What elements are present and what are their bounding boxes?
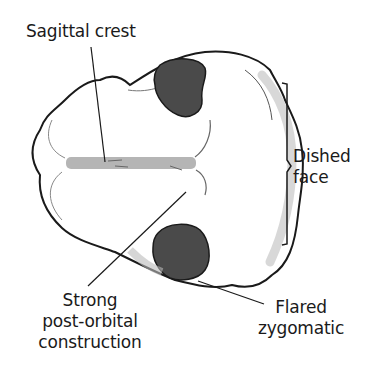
flared-zygomatic-line2: zygomatic [246,318,356,339]
sagittal-crest-label: Sagittal crest [26,21,136,42]
post-orbital-line3: construction [30,332,150,353]
skull-diagram: Sagittal crest Dished face Strong post-o… [0,0,380,390]
flared-zygomatic-line1: Flared [246,297,356,318]
post-orbital-label: Strong post-orbital construction [30,290,150,353]
dished-face-line1: Dished [293,146,351,167]
sagittal-crest-band [66,157,196,169]
dished-face-line2: face [293,167,351,188]
flared-zygomatic-label: Flared zygomatic [246,297,356,339]
post-orbital-line1: Strong [30,290,150,311]
post-orbital-line2: post-orbital [30,311,150,332]
dished-face-label: Dished face [293,146,351,188]
